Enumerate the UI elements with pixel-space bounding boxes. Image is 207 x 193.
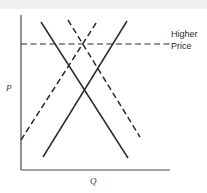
higher-price-line-1: Higher [171, 28, 198, 40]
x-axis-label: Q [90, 177, 97, 186]
new-supply-curve [21, 20, 98, 140]
higher-price-line-2: Price [171, 40, 198, 52]
supply-demand-chart: P Q Higher Price [0, 0, 207, 193]
higher-price-annotation: Higher Price [171, 28, 198, 52]
y-axis-label: P [6, 84, 12, 93]
